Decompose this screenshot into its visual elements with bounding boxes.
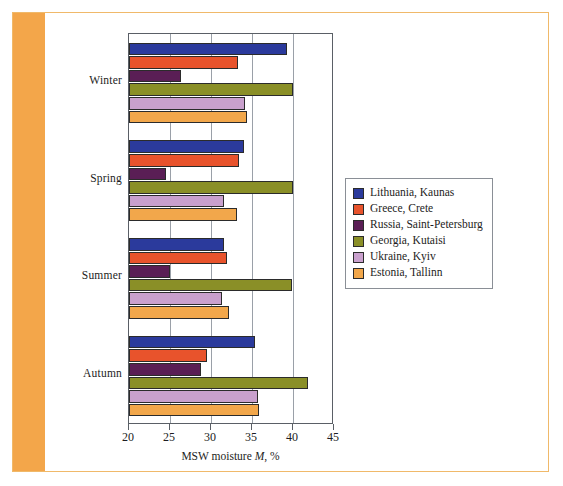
bar-row (129, 83, 332, 97)
x-tick-label: 30 (204, 430, 216, 445)
legend-item: Ukraine, Kyiv (353, 249, 483, 265)
bar-row (129, 292, 332, 306)
bar-row (129, 363, 332, 377)
bar-row (129, 181, 332, 195)
bar-row (129, 349, 332, 363)
bar-group (129, 132, 332, 230)
legend-item: Lithuania, Kaunas (353, 185, 483, 201)
bar (129, 70, 181, 83)
category-label: Summer (50, 269, 122, 281)
legend-label: Russia, Saint-Petersburg (370, 219, 483, 231)
bar (129, 181, 293, 194)
bar (129, 43, 287, 56)
legend-item: Russia, Saint-Petersburg (353, 217, 483, 233)
bar (129, 404, 259, 417)
bar-row (129, 390, 332, 404)
bar (129, 292, 222, 305)
bar (129, 390, 258, 403)
bar (129, 279, 292, 292)
x-axis-title-prefix: MSW moisture (181, 450, 254, 462)
bar (129, 140, 244, 153)
bar-row (129, 278, 332, 292)
legend-label: Estonia, Tallinn (370, 267, 442, 279)
bar-row (129, 335, 332, 349)
bar-chart-figure: WinterSpringSummerAutumn 202530354045 MS… (0, 0, 563, 486)
bar-row (129, 265, 332, 279)
x-tick-label: 20 (122, 430, 134, 445)
bar-row (129, 140, 332, 154)
bar-row (129, 306, 332, 320)
bar (129, 97, 245, 110)
bar-row (129, 153, 332, 167)
x-axis-title-suffix: , % (264, 450, 279, 462)
bar-row (129, 194, 332, 208)
bar (129, 111, 247, 124)
bar (129, 83, 293, 96)
legend-swatch (353, 236, 364, 247)
legend-swatch (353, 188, 364, 199)
legend-swatch (353, 252, 364, 263)
legend-label: Georgia, Kutaisi (370, 235, 446, 247)
bar-group (129, 230, 332, 328)
bar-groups (129, 34, 332, 423)
legend-item: Estonia, Tallinn (353, 265, 483, 281)
x-axis-title-variable: M (255, 450, 265, 462)
bar-row (129, 56, 332, 70)
x-axis-ticks: 202530354045 (128, 424, 333, 446)
bar-row (129, 110, 332, 124)
bar (129, 154, 239, 167)
bar-row (129, 251, 332, 265)
bar (129, 208, 237, 221)
bar-row (129, 208, 332, 222)
bar (129, 306, 229, 319)
bar-row (129, 403, 332, 417)
category-axis-labels: WinterSpringSummerAutumn (46, 33, 122, 424)
category-label: Winter (50, 74, 122, 86)
figure-page: WinterSpringSummerAutumn 202530354045 MS… (0, 0, 563, 486)
bar-row (129, 42, 332, 56)
bar (129, 168, 166, 181)
bar (129, 195, 224, 208)
bar (129, 336, 255, 349)
legend-label: Greece, Crete (370, 203, 433, 215)
bar (129, 56, 238, 69)
legend-label: Ukraine, Kyiv (370, 251, 436, 263)
bar (129, 377, 308, 390)
bar-row (129, 238, 332, 252)
bar (129, 363, 201, 376)
category-label: Spring (50, 172, 122, 184)
bar-group (129, 34, 332, 132)
bar (129, 349, 207, 362)
bar-row (129, 96, 332, 110)
bar (129, 238, 224, 251)
legend-item: Georgia, Kutaisi (353, 233, 483, 249)
legend-label: Lithuania, Kaunas (370, 187, 454, 199)
bar-row (129, 167, 332, 181)
bar-group (129, 327, 332, 425)
bar (129, 265, 170, 278)
x-tick-label: 40 (286, 430, 298, 445)
x-tick-label: 35 (245, 430, 257, 445)
legend-swatch (353, 268, 364, 279)
category-label: Autumn (50, 367, 122, 379)
bar-row (129, 376, 332, 390)
plot-area (128, 33, 333, 424)
bar-row (129, 69, 332, 83)
x-tick-label: 25 (163, 430, 175, 445)
legend-item: Greece, Crete (353, 201, 483, 217)
bar (129, 252, 227, 265)
x-axis-title: MSW moisture M, % (128, 450, 333, 462)
legend-swatch (353, 220, 364, 231)
x-tick-label: 45 (327, 430, 339, 445)
chart-legend: Lithuania, KaunasGreece, CreteRussia, Sa… (345, 178, 493, 289)
legend-swatch (353, 204, 364, 215)
